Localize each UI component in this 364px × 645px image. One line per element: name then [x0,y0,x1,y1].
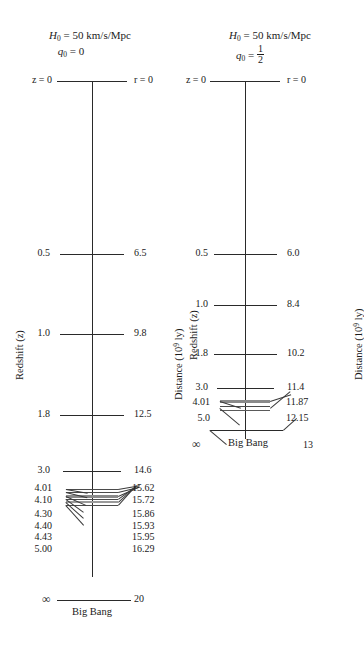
h0-value-right: = 50 km/s/Mpc [241,29,311,41]
left-bigbang-label: Big Bang [52,606,132,617]
right-label-r0: r = 0 [287,74,347,85]
right-rlabel-5: 12.15 [286,412,342,423]
q0-fraction: 12 [257,44,264,65]
deceleration-param-line-right: q0 = 12 [140,44,360,65]
left-infinity-label: ∞ [42,592,51,607]
right-zlabel-3: 3.0 [152,381,208,392]
left-label-z0: z = 0 [0,74,52,85]
hubble-constant-line-right: H0 = 50 km/s/Mpc [180,28,360,44]
right-tick-bigbang [210,430,283,431]
right-infinity-label: ∞ [192,437,201,452]
left-zlabel-5: 4.10 [0,494,52,505]
right-tick-z0p5 [214,254,277,255]
left-tick-z0 [57,81,127,82]
left-zlabel-8: 4.43 [0,531,52,542]
left-tick-bigbang [57,600,131,601]
left-tick-z0p5 [60,254,124,255]
q0-value-right: = [245,49,257,61]
left-tick-z1p0 [60,334,124,335]
left-redshift-axis-title: Redshift (z) [14,330,25,380]
h0-symbol: H [49,29,57,41]
right-zlabel-4: 4.01 [152,396,210,407]
right-rlabel-4: 11.87 [286,396,342,407]
right-tick-z3p0 [217,388,274,389]
left-tick-cluster-4p10 [66,492,118,493]
left-zlabel-9: 5.00 [0,543,52,554]
right-tick-cluster-5p0 [220,406,270,407]
right-distance-axis-title: Distance (109 ly) [352,309,364,380]
h0-symbol-right: H [229,29,237,41]
right-label-z0: z = 0 [146,74,206,85]
left-bottom-distance: 20 [134,593,174,604]
left-zlabel-3: 3.0 [0,464,50,475]
right-tick-z1p8 [214,354,277,355]
right-bottom-distance: 13 [303,439,343,450]
left-tick-z3p0 [63,471,121,472]
panel-right-header: H0 = 50 km/s/Mpc q0 = 12 [180,28,360,65]
right-axis-line [245,81,246,439]
h0-value: = 50 km/s/Mpc [61,29,131,41]
panel-q0-zero: H0 = 50 km/s/Mpc q0 = 0 z = 0 r = 0 0.5 … [0,0,180,645]
right-rlabel-1: 8.4 [287,298,343,309]
right-zlabel-2: 1.8 [152,347,208,358]
right-rlabel-0: 6.0 [287,247,343,258]
left-zlabel-4: 4.01 [0,482,52,493]
right-tick-cluster-extra [220,410,270,411]
right-zlabel-0: 0.5 [152,247,208,258]
right-zlabel-1: 1.0 [152,298,208,309]
left-tick-cluster-4p30 [66,495,118,498]
left-zlabel-7: 4.40 [0,520,52,531]
right-tick-z0 [210,81,280,82]
left-zlabel-6: 4.30 [0,508,52,519]
right-rlabel-3: 11.4 [287,381,343,392]
q0-value: = 0 [67,45,84,57]
left-zlabel-2: 1.8 [0,408,50,419]
right-redshift-axis-title: Redshift (z) [188,310,199,360]
right-bigbang-label: Big Bang [208,437,288,448]
right-zlabel-5: 5.0 [152,412,210,423]
left-tick-z1p8 [60,415,124,416]
right-rlabel-2: 10.2 [287,347,343,358]
right-tick-z1p0 [214,305,277,306]
left-zlabel-1: 1.0 [0,327,50,338]
left-zlabel-0: 0.5 [0,247,50,258]
panel-q0-half: H0 = 50 km/s/Mpc q0 = 12 z = 0 r = 0 0.5… [180,0,360,645]
left-tick-cluster-4p43 [66,501,118,503]
hubble-constant-line: H0 = 50 km/s/Mpc [0,28,180,44]
